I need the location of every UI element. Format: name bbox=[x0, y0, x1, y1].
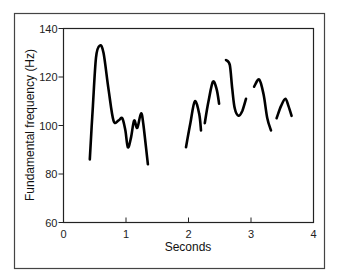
x-tick-label: 2 bbox=[185, 228, 191, 240]
f0-contour-lines bbox=[90, 45, 292, 164]
x-axis-ticks: 01234 bbox=[60, 218, 316, 240]
x-tick-label: 0 bbox=[60, 228, 66, 240]
x-tick-label: 3 bbox=[248, 228, 254, 240]
x-axis-label: Seconds bbox=[165, 240, 212, 254]
y-tick-label: 80 bbox=[45, 168, 57, 180]
f0-segment bbox=[254, 79, 271, 130]
y-tick-label: 100 bbox=[39, 120, 57, 132]
chart-figure: 6080100120140 01234 Seconds Fundamental … bbox=[0, 0, 337, 277]
y-tick-label: 140 bbox=[39, 23, 57, 35]
f0-segment bbox=[90, 45, 148, 164]
y-axis-ticks: 6080100120140 bbox=[39, 23, 63, 229]
x-tick-label: 1 bbox=[123, 228, 129, 240]
y-tick-label: 60 bbox=[45, 217, 57, 229]
x-tick-label: 4 bbox=[310, 228, 316, 240]
f0-segment bbox=[186, 101, 201, 147]
y-tick-label: 120 bbox=[39, 71, 57, 83]
f0-segment bbox=[277, 99, 292, 118]
f0-segment bbox=[205, 81, 219, 123]
f0-segment bbox=[226, 60, 246, 116]
plot-area bbox=[64, 29, 314, 223]
y-axis-label: Fundamental frequency (Hz) bbox=[23, 49, 37, 201]
